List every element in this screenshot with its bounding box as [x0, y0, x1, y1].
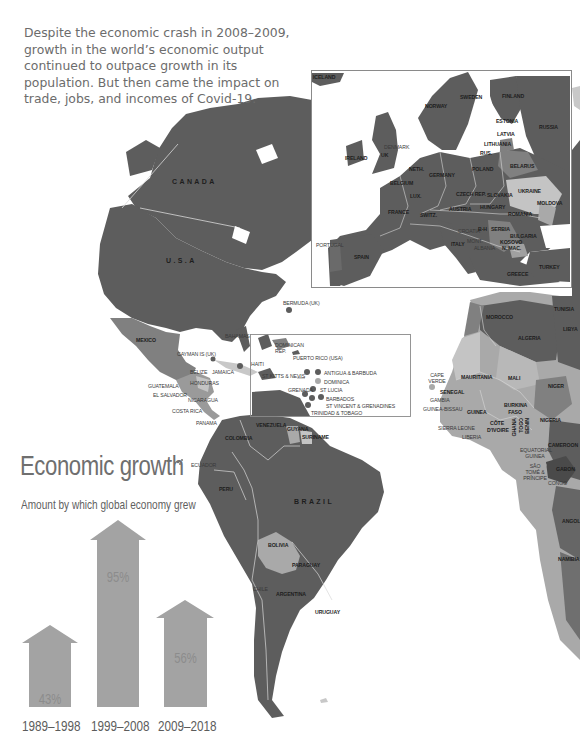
label-ecuador: ECUADOR: [191, 462, 216, 468]
label-benin: BENIN: [524, 418, 530, 434]
label-gabon: GABON: [556, 466, 575, 472]
label-guinea-bissau: GUINEA-BISSAU: [423, 406, 462, 412]
label-albania: ALBANIA: [474, 245, 495, 251]
label-st-vincent: ST VINCENT & GRENADINES: [326, 403, 395, 409]
arrow-1999-2008: [90, 520, 146, 707]
label-denmark: DENMARK: [384, 144, 409, 150]
label-nicaragua: NICARAGUA: [188, 397, 218, 403]
label-guinea: GUINEA: [467, 409, 487, 415]
label-bih: B-H: [478, 226, 487, 232]
label-ukraine: UKRAINE: [518, 188, 541, 194]
label-sao-tome: SÃO TOMÉ & PRÍNCIPE: [522, 463, 548, 481]
label-cayman: CAYMAN IS (UK): [177, 351, 216, 357]
label-neth: NETH.: [409, 166, 424, 172]
label-germany: GERMANY: [429, 172, 455, 178]
label-gambia: GAMBIA: [430, 397, 450, 403]
label-tunisia: TUNISIA: [554, 306, 574, 312]
label-finland: FINLAND: [502, 93, 524, 99]
label-romania: ROMANIA: [508, 211, 532, 217]
label-dominica: DOMINICA: [324, 379, 349, 385]
label-cote-divoire: CÔTE D'IVOIRE: [487, 420, 507, 434]
label-grenada: GRENADA: [288, 387, 313, 393]
label-usa: U.S.A: [166, 257, 197, 264]
label-austria: AUSTRIA: [449, 206, 471, 212]
label-peru: PERU: [219, 486, 233, 492]
label-lux: LUX.: [410, 193, 421, 199]
label-slovakia: SLOVAKIA: [487, 192, 513, 198]
label-haiti: HAITI: [251, 361, 264, 367]
label-barbados: BARBADOS: [326, 396, 354, 402]
label-turkey: TURKEY: [539, 264, 560, 270]
label-belarus: BELARUS: [510, 163, 534, 169]
chart-title: Economic growth: [20, 451, 184, 482]
label-serbia: SERBIA: [491, 226, 510, 232]
label-brazil: BRAZIL: [294, 498, 334, 505]
growth-arrows: [22, 520, 214, 707]
label-st-lucia: ST LUCIA: [320, 387, 342, 393]
label-guatemala: GUATEMALA: [148, 383, 179, 389]
label-guyana: GUYANA: [287, 426, 308, 432]
label-hungary: HUNGARY: [480, 204, 505, 210]
period-label-2009-2018: 2009–2018: [158, 717, 217, 734]
label-bolivia: BOLIVIA: [268, 542, 288, 548]
label-argentina: ARGENTINA: [276, 591, 306, 597]
label-costa-rica: COSTA RICA: [172, 408, 202, 414]
growth-value-56: 56%: [169, 649, 201, 666]
label-ghana: GHANA: [511, 418, 517, 437]
label-venezuela: VENEZUELA: [256, 422, 287, 428]
label-antigua: ANTIGUA & BARBUDA: [324, 370, 377, 376]
label-el-salvador: EL SALVADOR: [153, 392, 187, 398]
label-senegal: SENEGAL: [440, 389, 464, 395]
label-morocco: MOROCCO: [486, 314, 513, 320]
label-angola: ANGOL: [562, 518, 580, 524]
label-dominican-rep: DOMINICAN REP.: [275, 342, 305, 354]
label-portugal: PORTUGAL: [316, 242, 344, 248]
label-mali: MALI: [508, 375, 520, 381]
label-poland: POLAND: [472, 166, 493, 172]
period-label-1989-1998: 1989–1998: [22, 717, 81, 734]
label-moldova: MOLDOVA: [537, 200, 562, 206]
label-uruguay: URUGUAY: [315, 609, 340, 615]
label-cameroon: CAMEROON: [548, 442, 578, 448]
label-greece: GREECE: [507, 271, 528, 277]
label-honduras: HONDURAS: [190, 380, 219, 386]
label-cape-verde: CAPE VERDE: [427, 372, 447, 384]
label-panama: PANAMA: [196, 420, 217, 426]
label-croatia: CROATIA: [458, 228, 480, 234]
bermuda-dot: [286, 307, 292, 313]
label-rus: RUS.: [480, 150, 492, 156]
label-puerto-rico: PUERTO RICO (USA): [293, 355, 343, 361]
label-namibia: NAMIBIA: [558, 556, 580, 562]
label-canada: CANADA: [172, 178, 217, 185]
chart-subtitle: Amount by which global economy grew: [21, 498, 196, 512]
label-belgium: BELGIUM: [390, 180, 413, 186]
label-jamaica: JAMAICA: [212, 369, 234, 375]
label-sierra-leone: SIERRA LEONE: [438, 425, 475, 431]
label-st-kitts: ST KITTS & NEVIS: [262, 373, 305, 379]
label-ireland: IRELAND: [345, 155, 367, 161]
label-paraguay: PARAGUAY: [292, 562, 320, 568]
label-estonia: ESTONIA: [496, 118, 518, 124]
label-n-mac: N. MAC.: [502, 245, 521, 251]
label-mont: MONT.: [467, 238, 483, 244]
label-algeria: ALGERIA: [518, 335, 541, 341]
label-uk: UK: [381, 152, 388, 158]
label-burkina-faso: BURKINA FASO: [504, 402, 526, 416]
label-russia: RUSSIA: [539, 124, 558, 130]
label-nigeria: NIGERIA: [540, 417, 561, 423]
label-latvia: LATVIA: [497, 131, 515, 137]
period-label-1999-2008: 1999–2008: [91, 717, 150, 734]
label-congo: CONGO: [548, 480, 567, 486]
label-spain: SPAIN: [354, 254, 369, 260]
label-bahamas: BAHAMAS: [225, 333, 250, 339]
label-czech: CZECH REP.: [456, 191, 486, 197]
label-chile: CHILE: [253, 586, 268, 592]
label-colombia: COLOMBIA: [225, 435, 252, 441]
growth-value-95: 95%: [102, 568, 134, 585]
label-sweden: SWEDEN: [460, 94, 482, 100]
label-bermuda: BERMUDA (UK): [283, 300, 320, 306]
label-france: FRANCE: [388, 209, 409, 215]
label-suriname: SURINAME: [302, 434, 329, 440]
label-mauritania: MAURITANIA: [461, 374, 492, 380]
economic-growth-map-page: Despite the economic crash in 2008–2009,…: [0, 0, 580, 746]
